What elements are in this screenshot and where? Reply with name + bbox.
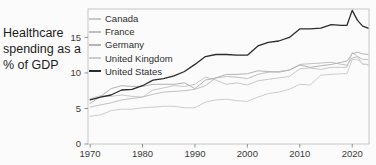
legend-label: United Kingdom (105, 53, 173, 64)
y-tick-label: 15 (70, 32, 81, 43)
x-tick-label: 2020 (342, 148, 363, 159)
x-tick-label: 2000 (237, 148, 258, 159)
x-tick-label: 2010 (289, 148, 310, 159)
legend-label: Canada (105, 13, 138, 24)
legend-key-france-icon (89, 31, 101, 33)
healthcare-spending-chart: Healthcare spending as a % of GDP 051015… (0, 0, 376, 165)
legend-key-canada-icon (89, 18, 101, 20)
legend-key-united-states-icon (89, 70, 101, 72)
legend: CanadaFranceGermanyUnited KingdomUnited … (89, 12, 173, 78)
legend-key-germany-icon (89, 44, 101, 46)
x-tick-label: 1980 (132, 148, 153, 159)
y-tick-label: 10 (70, 67, 81, 78)
legend-item-germany: Germany (89, 38, 173, 51)
legend-key-united-kingdom-icon (89, 57, 101, 59)
legend-item-france: France (89, 25, 173, 38)
x-tick-label: 1970 (80, 148, 101, 159)
legend-label: Germany (105, 39, 144, 50)
x-tick-label: 1990 (184, 148, 205, 159)
legend-item-united-states: United States (89, 65, 173, 78)
legend-item-united-kingdom: United Kingdom (89, 52, 173, 65)
plot-area: 051015197019801990200020102020 (0, 0, 376, 165)
legend-label: France (105, 26, 135, 37)
y-tick-label: 5 (76, 103, 81, 114)
legend-label: United States (105, 66, 162, 77)
legend-item-canada: Canada (89, 12, 173, 25)
